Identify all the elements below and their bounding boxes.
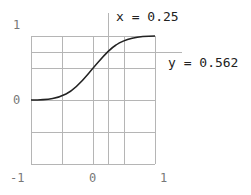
x-tick-neg1: -1	[10, 172, 24, 184]
x-tick-0: 0	[89, 172, 96, 184]
chart-plot	[0, 0, 251, 195]
y-tick-1: 1	[13, 19, 20, 31]
x-marker-label: x = 0.25	[116, 10, 179, 23]
grid	[31, 36, 156, 165]
y-marker-label: y = 0.562	[168, 56, 238, 69]
y-tick-0: 0	[13, 94, 20, 106]
x-tick-1: 1	[160, 172, 167, 184]
